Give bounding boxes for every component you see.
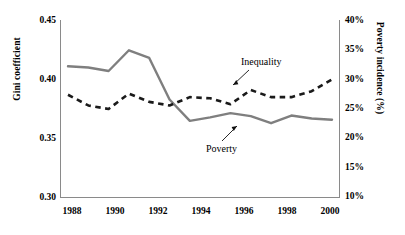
x-tick-1998: 1998 (264, 206, 310, 216)
x-tick-1990: 1990 (92, 206, 138, 216)
inequality-label: Inequality (241, 56, 282, 67)
poverty-series (68, 50, 332, 123)
inequality-series (68, 79, 332, 109)
x-tick-2000: 2000 (307, 206, 353, 216)
series-canvas (60, 20, 340, 198)
plot-area (60, 20, 340, 198)
x-tick-1988: 1988 (49, 206, 95, 216)
x-tick-1994: 1994 (178, 206, 224, 216)
x-tick-1992: 1992 (135, 206, 181, 216)
poverty-label: Poverty (206, 143, 237, 154)
gini-poverty-chart: Gini coefficient Poverty incidence (%) 0… (0, 0, 405, 235)
x-tick-1996: 1996 (221, 206, 267, 216)
